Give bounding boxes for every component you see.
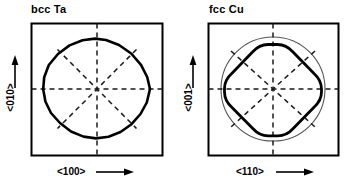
x-axis-label-fcc: <110> (236, 166, 264, 177)
x-axis-label-bcc: <100> (57, 166, 85, 177)
panel-bcc-ta: bcc Ta <010> <100> (0, 0, 178, 187)
y-axis-label-bcc: <010> (5, 76, 16, 120)
y-axis-label-fcc: <001> (183, 76, 194, 120)
plot-fcc-cu (178, 0, 356, 187)
panel-fcc-cu: fcc Cu <001> <110> (178, 0, 356, 187)
plot-bcc-ta (0, 0, 178, 187)
crystallography-figure: bcc Ta <010> <100> fcc C (0, 0, 356, 187)
